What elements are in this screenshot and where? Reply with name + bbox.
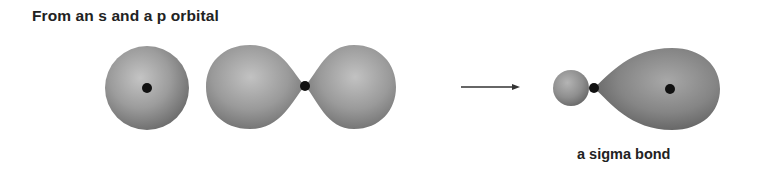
p-orbital-nucleus	[300, 81, 310, 91]
s-orbital-nucleus	[142, 83, 152, 93]
p-orbital	[206, 45, 396, 129]
sigma-bond	[553, 48, 720, 130]
p-orbital-left-lobe	[206, 45, 305, 129]
p-orbital-right-lobe	[305, 45, 396, 129]
sigma-small-lobe	[553, 70, 589, 106]
sigma-bond-nucleus	[589, 83, 599, 93]
sigma-far-nucleus	[665, 84, 675, 94]
diagram-title: From an s and a p orbital	[32, 7, 219, 25]
reaction-arrow	[461, 84, 520, 90]
s-orbital	[105, 46, 189, 130]
sigma-large-lobe	[594, 48, 720, 130]
sigma-bond-caption: a sigma bond	[577, 146, 670, 162]
arrow-head-icon	[512, 84, 520, 90]
